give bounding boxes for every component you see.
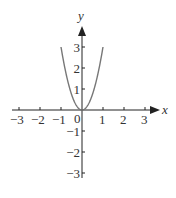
x-axis-label: x xyxy=(161,102,168,117)
parabola-chart: x y −3−2−1123 321−1−2−3 0 xyxy=(0,0,176,198)
y-tick-label: −1 xyxy=(66,124,80,139)
y-tick-label: 3 xyxy=(74,40,81,55)
x-tick-label: −2 xyxy=(31,112,45,127)
y-tick-label: −2 xyxy=(66,145,80,160)
x-tick-label: −3 xyxy=(10,112,24,127)
x-tick-label: 3 xyxy=(141,112,148,127)
y-tick-label: 1 xyxy=(74,82,81,97)
x-tick-label: −1 xyxy=(52,112,66,127)
y-tick-label: 2 xyxy=(74,61,81,76)
x-tick-label: 1 xyxy=(99,112,106,127)
x-axis-arrow-icon xyxy=(150,106,160,114)
y-axis-arrow-icon xyxy=(78,26,86,36)
origin-label: 0 xyxy=(74,111,81,126)
x-tick-label: 2 xyxy=(120,112,127,127)
y-axis-label: y xyxy=(76,8,84,23)
y-tick-label: −3 xyxy=(66,166,80,181)
